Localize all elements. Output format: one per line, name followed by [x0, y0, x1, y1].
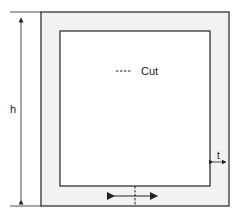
thickness-label: t — [217, 150, 220, 161]
cut-legend-label: Cut — [141, 65, 158, 77]
height-label: h — [10, 103, 16, 115]
square-tube-cross-section: h Cut t — [0, 0, 238, 221]
inner-hollow — [60, 31, 210, 186]
